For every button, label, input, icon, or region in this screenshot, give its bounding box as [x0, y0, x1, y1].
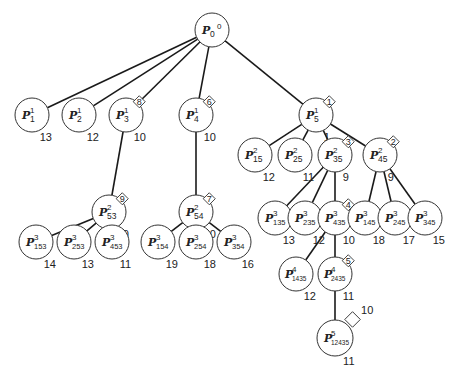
- node-subscript: 435: [333, 218, 346, 227]
- node-bound-value: 14: [44, 258, 56, 270]
- node-superscript: 3: [303, 209, 308, 218]
- tree-edge: [369, 172, 376, 202]
- node-superscript: 3: [156, 233, 161, 242]
- node-bound-value: 12: [304, 290, 316, 302]
- tree-node: P42435115: [318, 255, 354, 302]
- tree-node: P4143512: [279, 257, 316, 302]
- node-bound-value: 10: [204, 131, 216, 143]
- expansion-order-number: 4: [346, 200, 351, 210]
- node-subscript: 15: [253, 154, 263, 164]
- edges-layer: [47, 37, 415, 320]
- node-bound-value: 12: [87, 131, 99, 143]
- expansion-order-number: 5: [346, 256, 351, 266]
- node-superscript: 0: [217, 22, 222, 31]
- expansion-order-number: 8: [137, 97, 142, 107]
- node-subscript: 345: [423, 218, 436, 227]
- node-subscript: 3: [124, 114, 129, 124]
- node-superscript: 3: [72, 233, 77, 242]
- tree-edge: [312, 170, 327, 202]
- tree-node: P22511: [278, 138, 314, 183]
- expansion-order-number: 6: [207, 97, 212, 107]
- node-subscript: 135: [273, 218, 286, 227]
- tree-node: P5124351110: [317, 304, 373, 367]
- node-bound-value: 19: [166, 258, 178, 270]
- node-circle: [317, 320, 353, 356]
- tree-edge: [112, 132, 123, 196]
- tree-node: P13108: [109, 96, 146, 143]
- node-subscript: 145: [363, 218, 376, 227]
- tree-edge: [87, 223, 96, 231]
- node-bound-value: 11: [343, 290, 354, 302]
- node-bound-value: 11: [303, 171, 314, 183]
- node-superscript: 3: [34, 233, 39, 242]
- node-subscript: 5: [314, 114, 319, 124]
- tree-node: P315419: [141, 225, 178, 270]
- tree-node: P1212: [62, 98, 99, 143]
- node-bound-value: 12: [313, 234, 325, 246]
- tree-canvas: P00P1113P1212P13108P14106P1511P253109P25…: [0, 0, 450, 367]
- node-superscript: 3: [110, 233, 115, 242]
- node-bound-value: 16: [242, 258, 254, 270]
- expansion-order-number: 10: [361, 304, 373, 316]
- node-bound-value: 15: [433, 234, 445, 246]
- node-subscript: 54: [194, 211, 204, 221]
- node-subscript: 253: [72, 242, 85, 251]
- node-subscript: 4: [194, 114, 199, 124]
- node-bound-value: 11: [343, 355, 354, 367]
- node-subscript: 354: [232, 242, 245, 251]
- tree-node: P315314: [19, 225, 56, 270]
- node-superscript: 5: [331, 329, 336, 338]
- node-subscript: 154: [156, 242, 169, 251]
- tree-node: P345311: [95, 225, 131, 270]
- node-bound-value: 18: [204, 258, 216, 270]
- node-subscript: 453: [110, 242, 123, 251]
- search-tree-diagram: P00P1113P1212P13108P14106P1511P253109P25…: [0, 0, 450, 367]
- node-subscript: 245: [393, 218, 406, 227]
- node-superscript: 4: [331, 265, 336, 274]
- expansion-order-number: 9: [120, 194, 125, 204]
- node-subscript: 35: [333, 154, 343, 164]
- node-bound-value: 17: [403, 234, 415, 246]
- tree-node: P325313: [57, 225, 94, 270]
- expansion-order-number: 3: [346, 137, 351, 147]
- expansion-order-number: 1: [327, 97, 332, 107]
- node-bound-value: 18: [373, 234, 385, 246]
- node-superscript: 3: [393, 209, 398, 218]
- node-subscript: 45: [378, 154, 388, 164]
- tree-node: P1113: [15, 98, 52, 143]
- tree-edge: [225, 41, 303, 104]
- node-bound-value: 13: [82, 258, 94, 270]
- node-bound-value: 12: [263, 171, 275, 183]
- node-subscript: 153: [34, 242, 47, 251]
- tree-node: P24592: [363, 136, 399, 183]
- node-subscript: 235: [303, 218, 316, 227]
- node-subscript: 2435: [331, 275, 346, 282]
- node-bound-value: 10: [134, 131, 146, 143]
- node-subscript: 2: [77, 114, 82, 124]
- node-subscript: 53: [107, 211, 117, 221]
- node-bound-value: 11: [120, 258, 131, 270]
- node-subscript: 1: [30, 114, 35, 124]
- node-subscript: 254: [194, 242, 207, 251]
- tree-node: P14106: [179, 96, 216, 143]
- node-superscript: 3: [333, 209, 338, 218]
- tree-edge: [303, 130, 308, 140]
- nodes-layer: P00P1113P1212P13108P14106P1511P253109P25…: [15, 13, 445, 367]
- tree-edge: [171, 223, 182, 232]
- node-superscript: 3: [232, 233, 237, 242]
- node-bound-value: 9: [343, 171, 349, 183]
- tree-edge: [199, 47, 209, 99]
- expansion-order-number: 2: [391, 137, 396, 147]
- node-subscript: 1435: [292, 275, 307, 282]
- node-subscript: 25: [293, 154, 303, 164]
- node-superscript: 3: [273, 209, 278, 218]
- node-superscript: 4: [292, 265, 297, 274]
- node-superscript: 3: [363, 209, 368, 218]
- node-superscript: 3: [194, 233, 199, 242]
- tree-edge: [47, 37, 196, 107]
- expansion-order-number: 7: [207, 194, 212, 204]
- node-subscript: 0: [210, 29, 215, 39]
- tree-node: P23593: [318, 136, 354, 183]
- node-bound-value: 13: [40, 131, 52, 143]
- tree-node: P335416: [217, 225, 254, 270]
